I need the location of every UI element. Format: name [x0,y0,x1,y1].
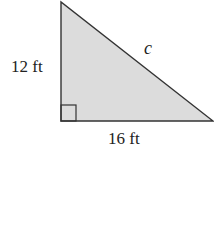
triangle-diagram: 12 ft 16 ft c [0,0,214,243]
hypotenuse-label: c [144,38,152,58]
vertical-leg-label: 12 ft [11,57,43,76]
horizontal-leg-label: 16 ft [108,129,140,148]
right-triangle [61,2,213,121]
